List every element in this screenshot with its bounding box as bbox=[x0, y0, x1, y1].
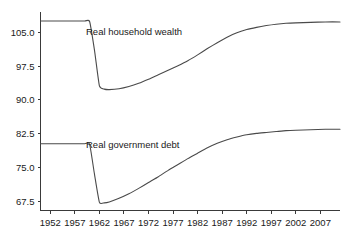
y-tick-label: 67.5 bbox=[16, 196, 35, 207]
x-tick-label: 1997 bbox=[261, 217, 282, 228]
chart-container: 67.575.082.590.097.5105.0 19521957196219… bbox=[0, 0, 343, 244]
y-axis-ticks: 67.575.082.590.097.5105.0 bbox=[11, 27, 41, 207]
x-tick-label: 1977 bbox=[162, 217, 183, 228]
data-series-group bbox=[41, 20, 341, 203]
wealth-label: Real household wealth bbox=[86, 26, 182, 37]
x-tick-label: 2002 bbox=[285, 217, 306, 228]
debt-label: Real government debt bbox=[86, 139, 180, 150]
y-tick-label: 105.0 bbox=[11, 27, 35, 38]
x-axis-ticks: 1952195719621967197219771982198719921997… bbox=[40, 211, 331, 228]
x-tick-label: 1967 bbox=[113, 217, 134, 228]
x-tick-label: 2007 bbox=[310, 217, 331, 228]
x-tick-label: 1952 bbox=[40, 217, 61, 228]
y-tick-label: 97.5 bbox=[16, 61, 35, 72]
y-tick-label: 90.0 bbox=[16, 94, 35, 105]
x-tick-label: 1957 bbox=[64, 217, 85, 228]
y-tick-label: 82.5 bbox=[16, 128, 35, 139]
x-tick-label: 1982 bbox=[187, 217, 208, 228]
x-tick-label: 1992 bbox=[236, 217, 257, 228]
x-tick-label: 1972 bbox=[138, 217, 159, 228]
x-tick-label: 1962 bbox=[89, 217, 110, 228]
x-tick-label: 1987 bbox=[212, 217, 233, 228]
y-tick-label: 75.0 bbox=[16, 162, 35, 173]
line-chart: 67.575.082.590.097.5105.0 19521957196219… bbox=[0, 0, 343, 244]
